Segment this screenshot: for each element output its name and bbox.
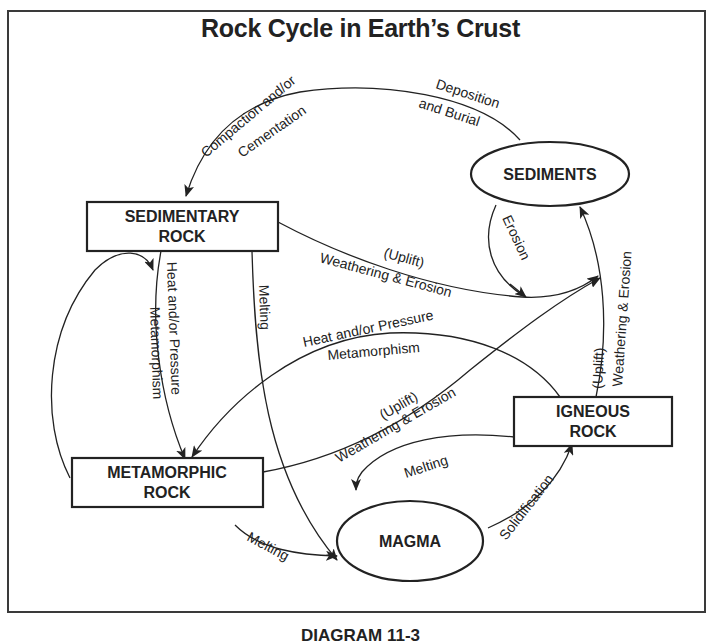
node-metamorphic-rock: METAMORPHIC ROCK	[72, 458, 263, 507]
node-sediments-label: SEDIMENTS	[503, 166, 597, 183]
node-igneous-rock-line1: IGNEOUS	[556, 403, 630, 420]
label-meta-magma-melting: Melting	[245, 529, 292, 564]
node-magma-label: MAGMA	[379, 533, 442, 550]
label-sed-magma-melting: Melting	[256, 285, 274, 331]
label-igneous-uplift: (Uplift)	[589, 347, 607, 389]
label-erosion: Erosion	[499, 213, 534, 263]
node-igneous-rock: IGNEOUS ROCK	[514, 397, 672, 446]
label-igneous-magma-melting: Melting	[402, 452, 450, 481]
label-igneous-weathering-erosion: Weathering & Erosion	[609, 250, 634, 387]
node-sedimentary-rock-line1: SEDIMENTARY	[125, 208, 240, 225]
node-igneous-rock-line2: ROCK	[569, 423, 617, 440]
node-metamorphic-rock-line1: METAMORPHIC	[107, 464, 227, 481]
edge-deposition-compaction	[186, 88, 520, 196]
edge-meta-sed-loop	[51, 253, 153, 478]
edge-erosion-arrow	[510, 284, 526, 297]
diagram-caption: DIAGRAM 11-3	[0, 626, 721, 641]
node-metamorphic-rock-line2: ROCK	[143, 484, 191, 501]
edge-solidification	[488, 444, 572, 528]
node-sedimentary-rock: SEDIMENTARY ROCK	[87, 202, 278, 251]
node-sediments: SEDIMENTS	[471, 142, 629, 206]
rock-cycle-diagram: SEDIMENTS SEDIMENTARY ROCK METAMORPHIC R…	[0, 0, 721, 641]
node-sedimentary-rock-line2: ROCK	[158, 228, 206, 245]
label-igneous-meta-metamorphism: Metamorphism	[327, 339, 421, 363]
node-magma: MAGMA	[337, 501, 483, 581]
label-sed-meta-metamorphism: Metamorphism	[147, 307, 166, 400]
label-sed-meta-heat: Heat and/or Pressure	[164, 262, 185, 396]
label-solidification: Solidification	[496, 471, 557, 543]
